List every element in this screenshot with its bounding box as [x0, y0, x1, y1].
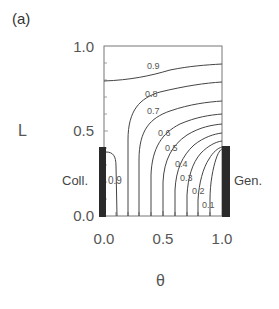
contour-label-09-left: 0.9 — [108, 175, 122, 186]
contour-label-01: 0.1 — [202, 200, 215, 210]
contour-label-05: 0.5 — [165, 143, 178, 153]
contour-label-03: 0.3 — [180, 173, 193, 183]
contour-label-02: 0.2 — [192, 186, 205, 196]
contour-label-07: 0.7 — [147, 106, 160, 116]
contour-labels: 0.9 0.8 0.7 0.6 0.5 0.4 0.3 0.2 0.1 0.9 — [108, 61, 215, 210]
contour-label-04: 0.4 — [175, 159, 188, 169]
generator-bar — [222, 146, 230, 217]
contour-label-08: 0.8 — [145, 89, 158, 99]
collector-bar — [99, 147, 106, 217]
contour-label-09: 0.9 — [147, 61, 160, 71]
contour-plot: 0.9 0.8 0.7 0.6 0.5 0.4 0.3 0.2 0.1 0.9 — [0, 0, 279, 309]
contour-label-06: 0.6 — [158, 128, 171, 138]
